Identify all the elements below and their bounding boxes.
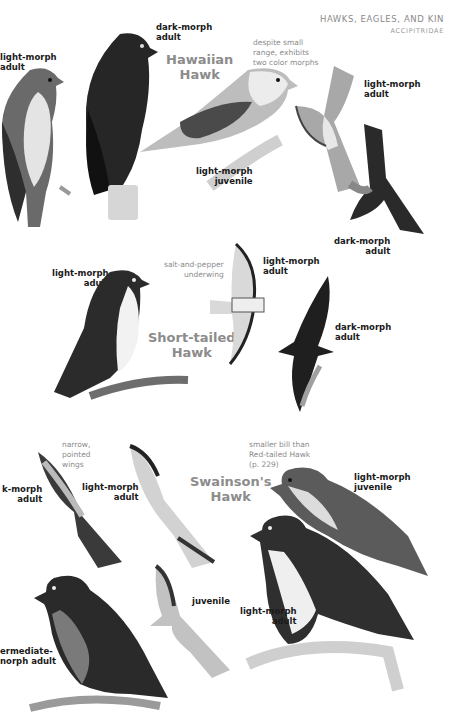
label-light-morph-adult-flight: light-morphadult: [364, 79, 421, 99]
hawaiian-hawk-light-morph-adult-illustration: [0, 62, 70, 232]
hawaiian-hawk-dark-morph-flight-illustration: [344, 124, 424, 234]
label-dark-morph-adult-flight: dark-morphadult: [335, 322, 391, 342]
page-header-title: HAWKS, EAGLES, AND KIN: [320, 14, 444, 24]
label-light-morph-adult-perched: light-morphadult: [240, 606, 297, 626]
page-header-family: ACCIPITRIDAE: [391, 27, 444, 35]
label-dark-morph-adult: dark-morphadult: [156, 22, 212, 42]
short-tailed-hawk-light-morph-flight-illustration: [206, 244, 266, 366]
species-name-swainsons-hawk: Swainson'sHawk: [190, 474, 272, 504]
label-intermediate-morph-adult-cropped: ermediate-norph adult: [0, 646, 56, 666]
label-light-morph-adult: light-morphadult: [0, 52, 57, 72]
swainsons-hawk-light-morph-flight-illustration: [128, 446, 218, 570]
note-two-color-morphs: despite smallrange, exhibitstwo color mo…: [253, 38, 318, 68]
swainsons-hawk-dark-morph-flight-illustration: [38, 452, 122, 570]
short-tailed-hawk-dark-morph-flight-illustration: [278, 276, 334, 412]
label-dark-morph-adult-flight: dark-morphadult: [334, 236, 390, 256]
label-light-morph-juvenile: light-morphjuvenile: [196, 166, 253, 186]
label-dark-morph-adult-cropped: k-morphadult: [2, 484, 42, 504]
swainsons-hawk-intermediate-morph-adult-illustration: [30, 574, 170, 714]
label-juvenile: juvenile: [192, 596, 230, 606]
label-light-morph-adult-flight: light-morphadult: [263, 256, 320, 276]
label-light-morph-juvenile: light-morphjuvenile: [354, 472, 411, 492]
